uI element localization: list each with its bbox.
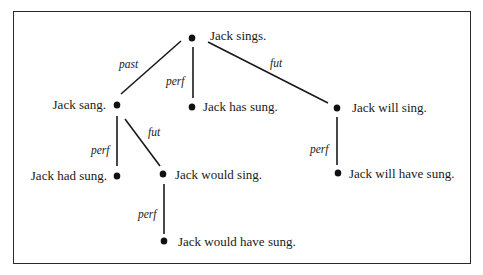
edge-label-past-fut: fut — [148, 126, 160, 138]
node-label-perf: Jack has sung. — [203, 100, 278, 114]
edge-label-past-perf: perf — [91, 144, 110, 156]
node-label-past-perf: Jack had sung. — [10, 169, 107, 183]
edge-label-root-past: past — [119, 58, 138, 70]
node-label-past: Jack sang. — [20, 98, 106, 112]
edge-label-root-fut: fut — [270, 57, 282, 69]
node-dot-past-perf — [114, 172, 121, 179]
node-dot-past-fut-perf — [161, 237, 168, 244]
node-dot-perf — [189, 103, 196, 110]
node-label-fut-perf: Jack will have sung. — [349, 167, 454, 181]
edge-label-fut-perf: perf — [310, 143, 329, 155]
node-dot-fut — [334, 104, 341, 111]
node-label-past-fut-perf: Jack would have sung. — [178, 235, 296, 249]
node-label-root: Jack sings. — [210, 29, 266, 43]
node-dot-fut-perf — [335, 169, 342, 176]
edge-label-root-perf: perf — [166, 75, 185, 87]
node-dot-root — [189, 34, 196, 41]
node-dot-past — [114, 101, 121, 108]
node-label-fut: Jack will sing. — [352, 101, 427, 115]
node-dot-past-fut — [160, 170, 167, 177]
edge-label-past-fut-perf: perf — [138, 208, 157, 220]
node-label-past-fut: Jack would sing. — [175, 168, 262, 182]
edge-root-fut — [208, 42, 328, 103]
